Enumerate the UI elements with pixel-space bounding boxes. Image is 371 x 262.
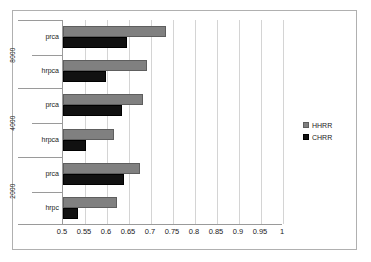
bar-4000-hrpca-CHRR bbox=[63, 140, 86, 151]
bar-2000-hrpc-HHRR bbox=[63, 197, 117, 208]
legend-swatch-CHRR bbox=[303, 134, 309, 140]
x-axis-tick-label: 0.9 bbox=[233, 227, 243, 236]
bar-8000-hrpca-CHRR bbox=[63, 71, 106, 82]
legend-label: HHRR bbox=[312, 122, 332, 129]
category-label: prca bbox=[45, 101, 59, 108]
gridline bbox=[173, 20, 174, 224]
x-axis-tick-label: 0.65 bbox=[121, 227, 136, 236]
category-divider bbox=[32, 123, 62, 124]
x-axis-tick-label: 1 bbox=[280, 227, 284, 236]
x-axis-tick-label: 0.85 bbox=[209, 227, 224, 236]
x-axis-tick-label: 0.5 bbox=[57, 227, 67, 236]
legend: HHRRCHRR bbox=[303, 119, 351, 143]
legend-item-CHRR: CHRR bbox=[303, 131, 351, 143]
gridline bbox=[107, 20, 108, 224]
axis-group-2000: 2000prcahrpc bbox=[18, 157, 62, 225]
bar-2000-prca-CHRR bbox=[63, 174, 124, 185]
x-axis-tick-label: 0.7 bbox=[145, 227, 155, 236]
x-axis-tick-label: 0.8 bbox=[189, 227, 199, 236]
bar-2000-hrpc-CHRR bbox=[63, 208, 78, 219]
bar-4000-hrpca-HHRR bbox=[63, 129, 114, 140]
x-axis-tick-label: 0.75 bbox=[165, 227, 180, 236]
gridline bbox=[85, 20, 86, 224]
bar-8000-hrpca-HHRR bbox=[63, 60, 147, 71]
plot-area bbox=[62, 20, 282, 225]
bar-4000-prca-HHRR bbox=[63, 94, 143, 105]
category-label: hrpc bbox=[45, 204, 59, 211]
category-label: prca bbox=[45, 33, 59, 40]
x-axis-tick-label: 0.95 bbox=[253, 227, 268, 236]
bar-2000-prca-HHRR bbox=[63, 163, 140, 174]
x-axis-tick-labels: 0.50.550.60.650.70.750.80.850.90.951 bbox=[62, 227, 282, 241]
group-label: 4000 bbox=[9, 115, 16, 130]
group-label: 2000 bbox=[9, 183, 16, 198]
category-label: hrpca bbox=[41, 67, 59, 74]
x-axis-tick-label: 0.55 bbox=[77, 227, 92, 236]
gridline bbox=[195, 20, 196, 224]
gridline bbox=[151, 20, 152, 224]
bar-8000-prca-CHRR bbox=[63, 37, 127, 48]
category-divider bbox=[32, 55, 62, 56]
gridline bbox=[217, 20, 218, 224]
axis-group-8000: 8000prcahrpca bbox=[18, 20, 62, 88]
category-label: prca bbox=[45, 170, 59, 177]
axis-group-4000: 4000prcahrpca bbox=[18, 88, 62, 156]
legend-swatch-HHRR bbox=[303, 122, 309, 128]
bar-4000-prca-CHRR bbox=[63, 105, 122, 116]
gridline bbox=[261, 20, 262, 224]
category-label: hrpca bbox=[41, 136, 59, 143]
gridline bbox=[129, 20, 130, 224]
legend-item-HHRR: HHRR bbox=[303, 119, 351, 131]
x-axis-tick-label: 0.6 bbox=[101, 227, 111, 236]
gridline bbox=[283, 20, 284, 224]
group-label: 8000 bbox=[9, 47, 16, 62]
bar-chart: 8000prcahrpca4000prcahrpca2000prcahrpc 0… bbox=[0, 0, 371, 262]
category-axis: 8000prcahrpca4000prcahrpca2000prcahrpc bbox=[18, 20, 62, 225]
gridline bbox=[239, 20, 240, 224]
legend-label: CHRR bbox=[312, 134, 332, 141]
bar-8000-prca-HHRR bbox=[63, 26, 166, 37]
category-divider bbox=[32, 192, 62, 193]
